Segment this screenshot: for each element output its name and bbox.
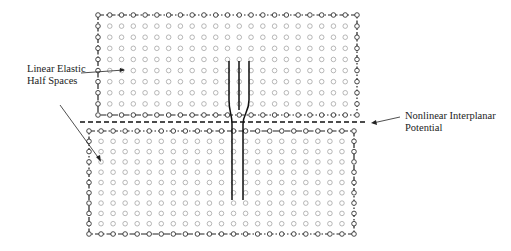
arrow-to-top-block [81, 70, 124, 73]
arrow-to-interface [373, 117, 400, 123]
label-line: Linear Elastic [27, 63, 86, 75]
label-linear-elastic: Linear Elastic Half Spaces [27, 63, 86, 87]
top-half-space-atoms [107, 24, 347, 106]
arrowhead-icon [371, 120, 377, 125]
arrow-to-bottom-block [60, 105, 100, 160]
label-line: Nonlinear Interplanar [405, 110, 496, 122]
bottom-half-space-atoms [99, 139, 345, 226]
label-nonlinear-potential: Nonlinear Interplanar Potential [405, 110, 496, 134]
label-line: Potential [405, 122, 496, 134]
label-line: Half Spaces [27, 75, 86, 87]
